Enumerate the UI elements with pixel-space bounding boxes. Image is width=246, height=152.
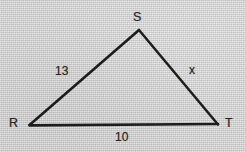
vertex-label-t: T [225, 117, 233, 129]
triangle-diagram: S R T 13 x 10 [0, 0, 246, 152]
vertex-label-r: R [9, 117, 18, 129]
side-rt-line [30, 124, 219, 125]
side-rs-line [30, 30, 140, 125]
vertex-label-s: S [133, 11, 142, 23]
side-label-st: x [189, 64, 195, 76]
side-label-rt: 10 [115, 131, 129, 143]
side-st-line [139, 30, 218, 125]
side-label-rs: 13 [55, 65, 69, 77]
